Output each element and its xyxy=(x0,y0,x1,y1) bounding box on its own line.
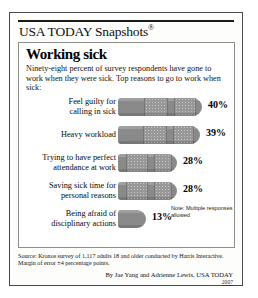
publication-year: 2007 xyxy=(222,279,233,285)
chart-panel: Working sick Ninety-eight percent of sur… xyxy=(18,42,235,248)
bandage-pad-icon xyxy=(173,126,194,144)
bandage-pad-icon xyxy=(143,126,167,144)
registered-mark-icon: ® xyxy=(148,23,154,32)
brand-rule xyxy=(18,20,234,22)
chart-row: Saving sick time for personal reasons 28… xyxy=(19,179,234,204)
bandage-pad-icon xyxy=(154,154,172,172)
bar-label-line1: Trying to have perfect xyxy=(42,153,116,162)
bandage-bar xyxy=(118,126,200,144)
bar-label-line1: Saving sick time for xyxy=(49,181,116,190)
bar-chart: Feel guilty for calling in sick 40% Heav… xyxy=(19,95,234,235)
bandage-bar xyxy=(118,182,177,200)
brand-title-text: USA TODAY Snapshots xyxy=(19,24,148,39)
bar-value: 28% xyxy=(183,183,203,194)
bandage-bar xyxy=(118,210,146,228)
page-title: Working sick xyxy=(26,46,107,63)
chart-subtitle: Ninety-eight percent of survey responden… xyxy=(26,64,228,93)
bar-value: 40% xyxy=(208,99,228,110)
chart-row: Trying to have perfect attendance at wor… xyxy=(19,151,234,176)
bandage-bar xyxy=(118,98,202,116)
bar-container xyxy=(118,182,177,200)
bar-container xyxy=(118,98,202,116)
bar-label: Saving sick time for personal reasons xyxy=(12,181,116,200)
bar-label-line2: disciplinary actions xyxy=(51,219,116,228)
bar-label-line2: attendance at work xyxy=(53,163,116,172)
bandage-bar xyxy=(118,154,177,172)
bandage-pad-icon xyxy=(174,98,196,116)
bar-label: Being afraid of disciplinary actions xyxy=(12,209,116,228)
bandage-pad-icon xyxy=(126,182,148,200)
bar-label: Feel guilty for calling in sick xyxy=(12,97,116,116)
bandage-pad-icon xyxy=(126,154,148,172)
byline: By Jae Yang and Adrienne Lewis, USA TODA… xyxy=(105,271,233,279)
snapshot-infographic: USA TODAY Snapshots® Working sick Ninety… xyxy=(9,12,243,286)
brand-title: USA TODAY Snapshots® xyxy=(19,23,154,40)
chart-note: Note: Multiple responses allowed xyxy=(171,205,233,218)
bar-container xyxy=(118,126,200,144)
bar-container xyxy=(118,154,177,172)
bar-label: Trying to have perfect attendance at wor… xyxy=(12,153,116,172)
chart-row: Feel guilty for calling in sick 40% xyxy=(19,95,234,120)
bar-value: 13% xyxy=(152,211,172,222)
bar-label-line1: Feel guilty for xyxy=(69,97,116,106)
bar-label-line2: personal reasons xyxy=(61,191,116,200)
bandage-pad-icon xyxy=(144,98,168,116)
bar-value: 39% xyxy=(206,127,226,138)
source-note: Source: Kronos survey of 1,117 adults 18… xyxy=(18,253,228,268)
bar-label: Heavy workload xyxy=(12,130,116,140)
bar-container xyxy=(118,210,146,228)
bar-label-line1: Being afraid of xyxy=(66,209,116,218)
bar-label-line2: calling in sick xyxy=(69,107,116,116)
bandage-pad-icon xyxy=(154,182,172,200)
bar-value: 28% xyxy=(183,155,203,166)
bar-label-line1: Heavy workload xyxy=(61,130,116,139)
chart-row: Heavy workload 39% xyxy=(19,123,234,148)
